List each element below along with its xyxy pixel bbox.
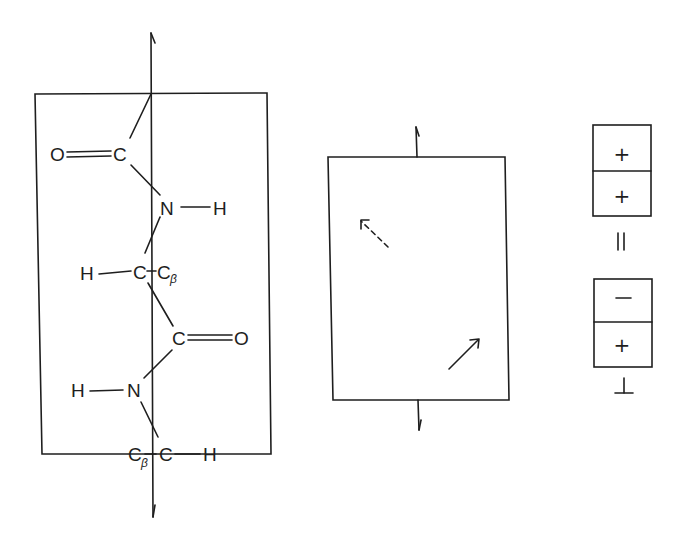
atom-n2: N <box>127 380 141 401</box>
atom-c2: C <box>172 328 186 349</box>
atom-h3: H <box>71 380 85 401</box>
atom-ca1: C <box>133 262 147 283</box>
atom-n1: N <box>160 198 174 219</box>
atom-h4: H <box>203 444 217 465</box>
atom-h2: H <box>80 263 94 284</box>
middle-frame <box>328 157 509 400</box>
bond-top-c1 <box>130 94 151 138</box>
atom-cb2: C <box>128 444 142 465</box>
right-panel: + + + <box>593 125 652 393</box>
atom-cb1: C <box>157 262 171 283</box>
perpendicular-bottom-sign: + <box>614 333 631 357</box>
bond-c2-n2 <box>144 350 172 378</box>
diagram-canvas: O C N H H C C β C O H N C β C H + + <box>0 0 685 540</box>
parallel-top-sign: + <box>614 142 631 166</box>
atom-h1: H <box>213 198 227 219</box>
double-bond-o1-c1-b <box>67 156 111 157</box>
bond-h3-n2 <box>90 390 123 391</box>
parallel-bottom-sign: + <box>614 184 631 208</box>
bond-c1-n1 <box>131 165 160 195</box>
atom-c1: C <box>113 144 127 165</box>
middle-panel <box>328 127 509 430</box>
atom-o1: O <box>50 144 65 165</box>
left-panel: O C N H H C C β C O H N C β C H <box>35 33 271 517</box>
bond-h2-ca1 <box>99 271 131 274</box>
atom-cb1-subscript: β <box>169 272 177 286</box>
middle-axis-bottom <box>418 400 419 430</box>
double-bond-o1-c1-a <box>67 151 111 152</box>
dashed-arrow-up-left-icon <box>361 221 388 247</box>
left-axis <box>151 33 153 517</box>
atom-o2: O <box>234 328 249 349</box>
solid-arrow-up-right-icon <box>449 340 478 369</box>
bond-n2-ca2 <box>141 402 158 437</box>
atom-cb2-subscript: β <box>140 456 148 470</box>
atom-ca2: C <box>159 444 173 465</box>
